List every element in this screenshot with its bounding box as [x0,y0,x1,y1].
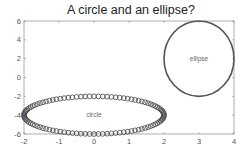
plot-frame [24,21,234,134]
annotation-circle: circle [86,111,102,118]
circle-marker [44,126,49,131]
y-tick-label: 2 [17,54,21,63]
chart: A circle and an ellipse? -2-101234 -6-4-… [0,0,248,152]
y-tick-label: 4 [17,35,21,44]
y-tick-label: 6 [17,17,21,26]
x-tick-label: -1 [56,137,63,146]
chart-title: A circle and an ellipse? [67,3,195,17]
x-tick-label: 4 [232,137,236,146]
circle-marker [143,126,148,131]
circle-marker [41,126,46,131]
x-tick-label: 1 [127,137,131,146]
circle-marker [47,98,52,103]
circle-marker [140,126,145,131]
x-tick-label: 3 [197,137,201,146]
plot-series [22,21,234,136]
circle-marker [143,100,148,105]
circle-marker [44,99,49,104]
circle-marker [140,99,145,104]
x-tick-label: 0 [92,137,96,146]
circle-marker [41,100,46,105]
y-axis-ticks: -6-4-20246 [14,17,234,139]
annotation-ellipse: ellipse [190,55,209,63]
x-tick-label: 2 [162,137,166,146]
circle-marker [136,127,141,132]
x-axis-ticks: -2-101234 [21,21,236,146]
x-tick-label: -2 [21,137,28,146]
y-tick-label: -6 [14,130,21,139]
y-tick-label: 0 [17,73,21,82]
y-tick-label: -4 [14,111,21,120]
y-tick-label: -2 [14,92,21,101]
plot-annotations: circleellipse [86,55,208,118]
